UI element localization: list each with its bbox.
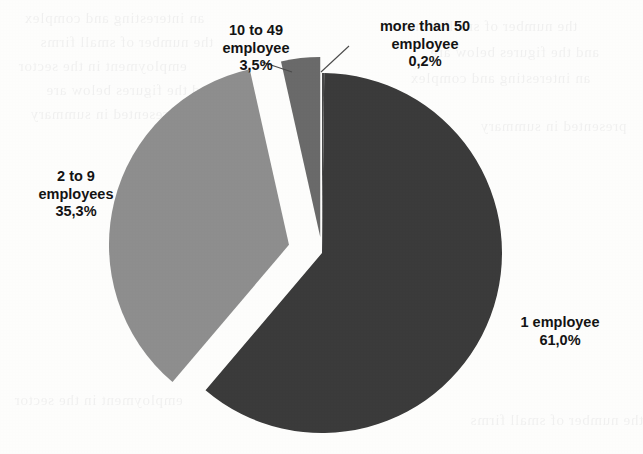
slice-label-2-to-9-line2: employees	[8, 186, 144, 204]
slice-label-2-to-9-value: 35,3%	[8, 203, 144, 221]
slice-label-10-to-49: 10 to 49 employee 3,5%	[196, 22, 316, 75]
slice-label-1-employee-line1: 1 employee	[488, 314, 632, 332]
slice-label-2-to-9: 2 to 9 employees 35,3%	[8, 168, 144, 221]
slice-label-10-to-49-line1: 10 to 49	[196, 22, 316, 40]
slice-label-2-to-9-line1: 2 to 9	[8, 168, 144, 186]
slice-label-more-than-50-value: 0,2%	[352, 53, 498, 71]
slice-label-more-than-50-line1: more than 50	[352, 18, 498, 36]
slice-label-more-than-50-line2: employee	[352, 36, 498, 54]
slice-label-more-than-50: more than 50 employee 0,2%	[352, 18, 498, 71]
slice-label-1-employee: 1 employee 61,0%	[488, 314, 632, 349]
pie-chart-svg	[0, 0, 643, 454]
slice-label-10-to-49-value: 3,5%	[196, 57, 316, 75]
slice-label-1-employee-value: 61,0%	[488, 332, 632, 350]
pie-chart-figure: an interesting and complex the number of…	[0, 0, 643, 454]
pie-slice-10-to-49-employee[interactable]	[281, 57, 320, 237]
leader-line-more-than-50	[321, 46, 349, 72]
slice-label-10-to-49-line2: employee	[196, 40, 316, 58]
